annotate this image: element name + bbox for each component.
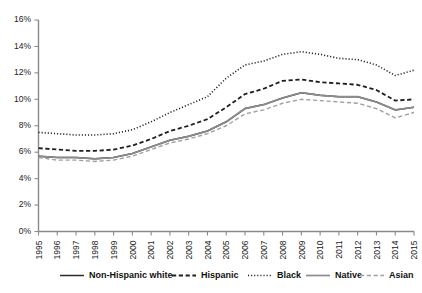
legend-label-asian: Asian [389, 270, 414, 280]
y-tick-label: 16% [14, 14, 31, 24]
chart-container: 0%2%4%6%8%10%12%14%16% 19951996199719981… [0, 0, 422, 293]
legend-label-hispanic: Hispanic [201, 270, 239, 280]
x-tick-label: 1998 [90, 240, 100, 259]
x-tick-label: 2001 [146, 240, 156, 259]
x-tick-label: 2009 [297, 240, 307, 259]
x-tick-label: 2014 [390, 240, 400, 259]
x-tick-label: 2003 [184, 240, 194, 259]
series-line-hispanic [39, 79, 415, 150]
x-tick-label: 2013 [372, 240, 382, 259]
chart-legend: Non-Hispanic whiteHispanicBlackNativeAsi… [60, 270, 414, 280]
y-tick-label: 12% [14, 67, 31, 77]
data-series-group [39, 52, 415, 162]
y-tick-label: 10% [14, 94, 31, 104]
y-tick-label: 0% [19, 226, 32, 236]
x-tick-label: 1996 [52, 240, 62, 259]
x-tick-label: 1997 [71, 240, 81, 259]
x-tick-label: 2012 [353, 240, 363, 259]
y-tick-label: 2% [19, 199, 32, 209]
x-tick-label: 2006 [240, 240, 250, 259]
x-axis-tick-labels: 1995199619971998199920002001200220032004… [34, 240, 420, 259]
x-tick-label: 2007 [259, 240, 269, 259]
x-tick-label: 2000 [128, 240, 138, 259]
line-chart: 0%2%4%6%8%10%12%14%16% 19951996199719981… [0, 0, 422, 293]
x-tick-label: 2015 [409, 240, 419, 259]
x-tick-label: 2010 [315, 240, 325, 259]
x-tick-label: 2008 [278, 240, 288, 259]
x-tick-label: 1995 [34, 240, 44, 259]
y-axis-tick-labels: 0%2%4%6%8%10%12%14%16% [14, 14, 31, 236]
y-tick-label: 14% [14, 41, 31, 51]
y-tick-label: 4% [19, 173, 32, 183]
y-tick-label: 8% [19, 120, 32, 130]
y-tick-label: 6% [19, 146, 32, 156]
series-line-asian [39, 99, 415, 161]
legend-label-native: Native [335, 270, 362, 280]
legend-label-black: Black [277, 270, 302, 280]
x-tick-label: 1999 [109, 240, 119, 259]
x-tick-label: 2005 [221, 240, 231, 259]
x-tick-label: 2002 [165, 240, 175, 259]
legend-label-non-hispanic-white: Non-Hispanic white [89, 270, 173, 280]
x-tick-label: 2011 [334, 240, 344, 259]
x-tick-label: 2004 [203, 240, 213, 259]
